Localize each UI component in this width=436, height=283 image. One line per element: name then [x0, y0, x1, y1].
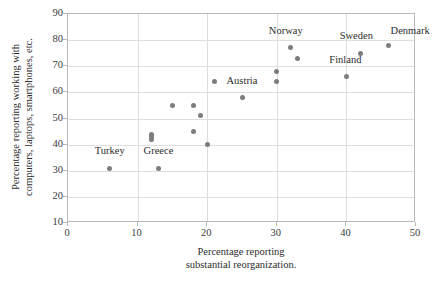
- y-axis-tickmark: [63, 13, 67, 14]
- y-axis-tick-label: 80: [33, 34, 63, 44]
- data-point: [191, 129, 196, 134]
- data-point: [191, 103, 196, 108]
- x-axis-ticks: 01020304050: [67, 227, 415, 241]
- x-axis-tickmark: [137, 222, 138, 226]
- data-point: [386, 43, 391, 48]
- data-point: [274, 69, 279, 74]
- gridline-vertical: [207, 14, 208, 221]
- data-point: [274, 79, 279, 84]
- data-point: [156, 166, 161, 171]
- point-label-sweden: Sweden: [340, 30, 373, 41]
- x-axis-tickmark: [67, 222, 68, 226]
- gridline-horizontal: [68, 119, 414, 120]
- y-axis-label-line2: computers, laptops, smartphones, etc.: [22, 2, 35, 232]
- y-axis-tickmark: [63, 170, 67, 171]
- x-axis-tick-label: 40: [325, 227, 365, 238]
- y-axis-tick-label: 40: [33, 139, 63, 149]
- x-axis-tick-label: 0: [47, 227, 87, 238]
- point-label-denmark: Denmark: [391, 25, 430, 36]
- y-axis-tickmark: [63, 196, 67, 197]
- y-axis-label: Percentage reporting working with comput…: [9, 2, 35, 232]
- x-axis-tickmark: [415, 222, 416, 226]
- y-axis-tick-label: 90: [33, 8, 63, 18]
- x-axis-label: Percentage reporting substantial reorgan…: [67, 245, 415, 271]
- y-axis-tickmark: [63, 65, 67, 66]
- y-axis-label-line1: Percentage reporting working with: [10, 44, 21, 190]
- x-axis-tickmark: [345, 222, 346, 226]
- x-axis-label-line1: Percentage reporting: [197, 246, 284, 257]
- gridline-horizontal: [68, 171, 414, 172]
- scatter-plot-figure: TurkeyGreeceAustriaNorwayFinlandSwedenDe…: [0, 0, 436, 283]
- x-axis-label-line2: substantial reorganization.: [67, 258, 415, 271]
- data-point: [205, 142, 210, 147]
- point-label-turkey: Turkey: [95, 145, 125, 156]
- y-axis-tickmark: [63, 39, 67, 40]
- point-label-austria: Austria: [227, 75, 258, 86]
- gridline-vertical: [138, 14, 139, 221]
- data-point: [288, 45, 293, 50]
- gridline-horizontal: [68, 92, 414, 93]
- y-axis-tickmark: [63, 144, 67, 145]
- y-axis-tick-label: 10: [33, 217, 63, 227]
- gridline-vertical: [277, 14, 278, 221]
- x-axis-tick-label: 20: [186, 227, 226, 238]
- data-point: [240, 95, 245, 100]
- x-axis-tickmark: [276, 222, 277, 226]
- gridline-vertical: [346, 14, 347, 221]
- data-point: [295, 56, 300, 61]
- x-axis-tickmark: [206, 222, 207, 226]
- data-point: [344, 74, 349, 79]
- x-axis-tick-label: 10: [117, 227, 157, 238]
- data-point: [107, 166, 112, 171]
- point-label-greece: Greece: [144, 145, 174, 156]
- point-label-finland: Finland: [329, 54, 361, 65]
- x-axis-tick-label: 50: [395, 227, 435, 238]
- y-axis-tickmark: [63, 118, 67, 119]
- data-point: [212, 79, 217, 84]
- y-axis-tick-label: 60: [33, 86, 63, 96]
- gridline-horizontal: [68, 66, 414, 67]
- x-axis-tick-label: 30: [256, 227, 296, 238]
- y-axis-tick-label: 20: [33, 191, 63, 201]
- gridline-horizontal: [68, 197, 414, 198]
- y-axis-tick-label: 70: [33, 60, 63, 70]
- data-point: [170, 103, 175, 108]
- y-axis-tick-label: 50: [33, 113, 63, 123]
- y-axis-tick-label: 30: [33, 165, 63, 175]
- point-label-norway: Norway: [269, 25, 303, 36]
- y-axis-tickmark: [63, 91, 67, 92]
- data-point: [149, 137, 154, 142]
- plot-area: TurkeyGreeceAustriaNorwayFinlandSwedenDe…: [67, 13, 415, 222]
